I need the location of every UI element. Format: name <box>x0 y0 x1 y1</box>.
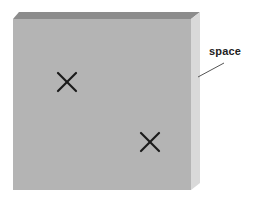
label-leader-line <box>198 63 224 77</box>
slab-side-face <box>191 12 200 190</box>
slab-top-face <box>13 12 200 19</box>
slab-front-face <box>13 19 191 190</box>
slab-diagram <box>0 0 255 201</box>
space-label: space <box>209 45 241 57</box>
